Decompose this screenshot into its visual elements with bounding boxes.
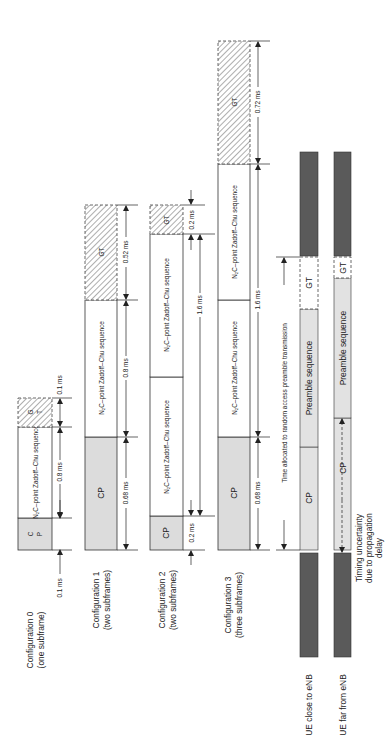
uncertainty-label-line1: Timing uncertainty [354,513,364,582]
ue-far-next-data [334,152,351,256]
config3-cp-dim-label: 0.68 ms [254,482,261,505]
config2-subtitle: (two subframes) [168,570,178,630]
config3-title: Configuration 3 [223,576,233,633]
config3-sequence-label-1: N₂C–point Zadoff–Chu sequence [231,321,239,415]
ue-far-gt-label: GT [338,262,348,274]
config1-subtitle: (two subframes) [102,570,112,630]
config3-cp-label: CP [229,487,239,499]
config2-title: Configuration 2 [157,571,167,628]
configuration-3: CP N₂C–point Zadoff–Chu sequence N₂C–poi… [218,41,270,638]
config2-seq-dim-label: 1.6 ms [196,295,203,314]
config0-cp-dim-label: 0.1 ms [56,578,63,597]
uncertainty-label-line2: due to propagation [364,513,374,583]
ue-close-row: CP Preamble sequence GT UE close to eNB [300,152,318,736]
ue-close-next-data [300,152,318,256]
config1-title: Configuration 1 [91,571,101,628]
config0-gt-block [18,398,52,427]
ue-close-label: UE close to eNB [304,674,314,736]
config3-sequence-label-2: N₂C–point Zadoff–Chu sequence [231,185,239,279]
ue-far-row: CP Preamble sequence GT UE far from eNB … [334,152,384,736]
ue-close-cp-label: CP [304,492,314,504]
ue-far-label: UE far from eNB [338,674,348,736]
config0-gt-label-a: G [27,409,34,414]
config1-cp-dim-label: 0.68 ms [122,482,129,505]
config1-gt-dim-label: 0.52 ms [122,241,129,264]
config0-cp-block [18,518,52,550]
config0-gt-label-b: T [36,410,43,414]
ue-far-cp-block [334,418,351,550]
config2-sequence-label-1: N₂C–point Zadoff–Chu sequence [163,400,171,494]
config0-gt-dim-label: 0.1 ms [56,375,63,394]
ue-far-prev-data [334,553,351,657]
ue-close-preamble-label: Preamble sequence [304,340,314,415]
config3-seq-dim-label: 1.6 ms [254,290,261,309]
config1-cp-label: CP [96,487,106,499]
config0-subtitle: (one subframe) [36,611,46,668]
ue-far-cp-label: CP [338,462,348,474]
config2-cp-label: CP [161,527,171,539]
configuration-0: C P N₂C–point Zadoff–Chu sequence G T 0.… [18,375,72,668]
prach-preamble-formats-diagram: C P N₂C–point Zadoff–Chu sequence G T 0.… [0,0,389,742]
config2-gt-label: GT [163,215,170,224]
ue-far-preamble-label: Preamble sequence [338,310,348,385]
config0-sequence-label: N₂C–point Zadoff–Chu sequence [32,425,40,519]
ue-close-gt-label: GT [304,277,314,289]
config0-seq-dim-label: 0.8 ms [56,462,63,481]
uncertainty-label-line3: delay [374,537,384,558]
config2-sequence-label-2: N₂C–point Zadoff–Chu sequence [163,258,171,352]
config1-gt-label: GT [98,247,105,256]
configuration-1: CP N₂C–point Zadoff–Chu sequence GT 0.68… [85,205,138,630]
config0-cp-label-b: P [36,532,43,536]
config3-gt-dim-label: 0.72 ms [254,91,261,114]
config3-gt-label: GT [231,97,238,106]
config1-sequence-label: N₂C–point Zadoff–Chu sequence [98,321,106,415]
config1-seq-dim-label: 0.8 ms [122,358,129,377]
config2-gt-dim-label: 0.2 ms [188,210,195,229]
config0-title: Configuration 0 [25,611,35,668]
ue-close-prev-data [300,553,318,657]
configuration-2: CP N₂C–point Zadoff–Chu sequence N₂C–poi… [150,190,215,630]
timing-allocation: Time allocated to random access preamble… [276,257,300,550]
config2-cp-dim-label: 0.2 ms [188,523,195,542]
config0-cp-label-a: C [27,531,34,536]
allocated-time-label: Time allocated to random access preamble… [281,323,289,483]
config3-subtitle: (three subframes) [234,572,244,638]
